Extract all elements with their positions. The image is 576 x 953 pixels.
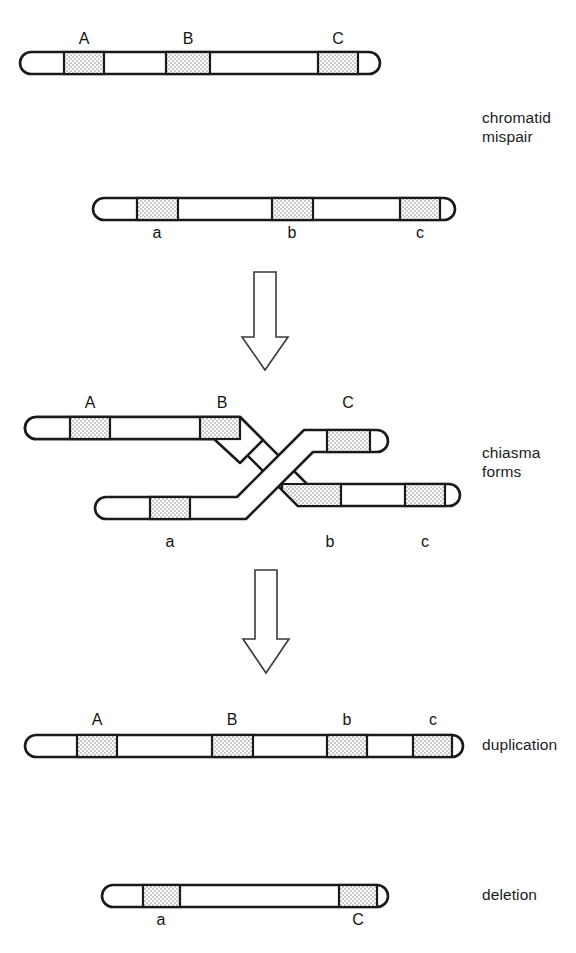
band-label-C-upper-parental: C — [325, 30, 351, 48]
band-C — [327, 430, 370, 452]
band-label-a-deletion: a — [148, 911, 174, 929]
band-a — [150, 497, 190, 519]
band-A — [77, 735, 117, 757]
band-C — [318, 52, 358, 74]
band-label-a-lower-parental: a — [144, 224, 170, 242]
chiasma-structure — [25, 417, 460, 519]
band-label-c-chiasma: c — [412, 533, 438, 551]
band-label-C-deletion: C — [345, 911, 371, 929]
chromosome-duplication-product — [25, 735, 463, 757]
band-C — [339, 885, 377, 907]
band-c — [400, 198, 440, 220]
arrow-chiasma-to-products-icon — [243, 570, 289, 673]
band-a — [143, 885, 180, 907]
band-label-b-lower-parental: b — [279, 224, 305, 242]
band-c — [405, 484, 445, 506]
stage-label-deletion: deletion — [482, 885, 537, 904]
band-label-c-lower-parental: c — [407, 224, 433, 242]
band-b — [282, 484, 341, 506]
band-a — [137, 198, 178, 220]
stage-label-chiasma-forms: chiasma forms — [482, 443, 540, 481]
band-b — [327, 735, 367, 757]
band-label-A-upper-parental: A — [71, 30, 97, 48]
band-b — [272, 198, 313, 220]
band-label-C-chiasma: C — [335, 394, 361, 412]
band-label-B-duplication: B — [219, 711, 245, 729]
band-label-B-chiasma: B — [209, 394, 235, 412]
stage-label-chromatid-mispair: chromatid mispair — [482, 108, 551, 146]
band-B — [200, 417, 240, 439]
arrow-mispair-to-chiasma-icon — [242, 272, 288, 370]
band-B — [166, 52, 210, 74]
band-label-A-duplication: A — [84, 711, 110, 729]
band-A — [70, 417, 110, 439]
chromosome-lower-parental-chromatid — [93, 198, 455, 220]
band-label-A-chiasma: A — [77, 394, 103, 412]
band-label-B-upper-parental: B — [175, 30, 201, 48]
band-B — [212, 735, 253, 757]
band-label-c-duplication: c — [420, 711, 446, 729]
band-label-b-chiasma: b — [317, 533, 343, 551]
band-label-a-chiasma: a — [157, 533, 183, 551]
chromosome-upper-parental-chromatid — [20, 52, 380, 74]
band-A — [64, 52, 104, 74]
band-label-b-duplication: b — [334, 711, 360, 729]
chromosome-deletion-product — [102, 885, 388, 907]
stage-label-duplication: duplication — [482, 735, 557, 754]
band-c — [413, 735, 452, 757]
